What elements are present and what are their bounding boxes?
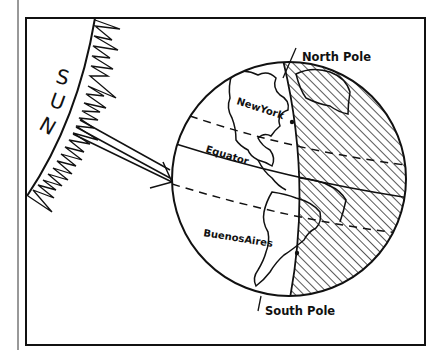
- north-pole-label: North Pole: [302, 50, 371, 64]
- south-pole-label: South Pole: [265, 304, 335, 318]
- buenos-aires-dot: [295, 251, 299, 255]
- diagram-canvas: S U N: [0, 0, 446, 353]
- new-york-dot: [290, 120, 294, 124]
